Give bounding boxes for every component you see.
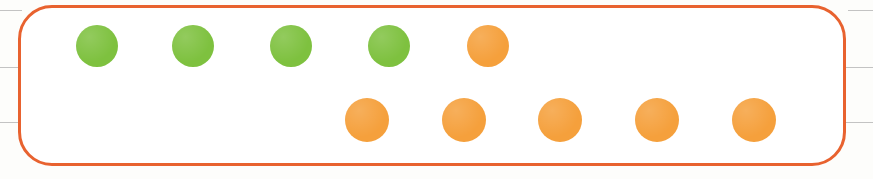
guide-line: [846, 67, 873, 68]
counter-dot-green[interactable]: [270, 25, 312, 67]
guide-line: [0, 10, 22, 11]
counter-dot-green[interactable]: [76, 25, 118, 67]
guide-line: [846, 122, 873, 123]
counter-dot-green[interactable]: [172, 25, 214, 67]
counter-dot-green[interactable]: [368, 25, 410, 67]
counter-dot-orange[interactable]: [635, 98, 679, 142]
dot-counter-scene: [0, 0, 873, 179]
counter-dot-orange[interactable]: [345, 98, 389, 142]
counter-dot-orange[interactable]: [442, 98, 486, 142]
guide-line: [848, 10, 873, 11]
counter-dot-orange[interactable]: [732, 98, 776, 142]
grouped-items-highlight-box: [18, 5, 846, 166]
counter-dot-orange[interactable]: [467, 25, 509, 67]
guide-line: [0, 122, 20, 123]
guide-line: [0, 67, 20, 68]
counter-dot-orange[interactable]: [538, 98, 582, 142]
